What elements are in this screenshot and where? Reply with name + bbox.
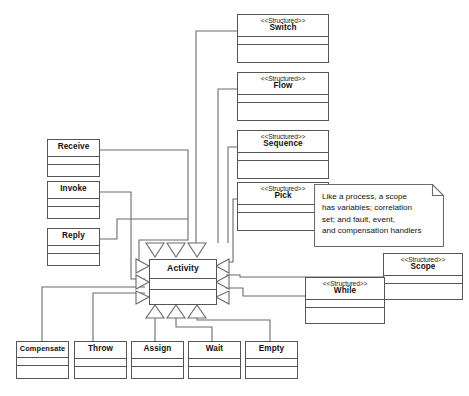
class-box-assign[interactable]: Assign <box>131 341 184 379</box>
operations-compartment <box>48 254 99 262</box>
class-name: Scope <box>386 263 460 272</box>
class-header-while: <<Structured>> While <box>306 278 384 300</box>
operations-compartment <box>189 367 240 375</box>
class-header-empty: Empty <box>246 342 297 359</box>
class-name: Switch <box>240 24 326 33</box>
class-box-while[interactable]: <<Structured>> While <box>305 277 385 324</box>
operations-compartment <box>238 161 328 169</box>
attributes-compartment <box>238 153 328 161</box>
class-header-wait: Wait <box>189 342 240 359</box>
edge-wait-activity <box>176 318 212 341</box>
generalization-triangle-right-3 <box>216 291 229 304</box>
attributes-compartment <box>246 359 297 367</box>
operations-compartment <box>238 103 328 111</box>
edge-reply-activity <box>100 219 188 239</box>
note-line-3: set; and fault, event, <box>322 214 438 225</box>
generalization-triangle-top-2 <box>167 243 185 257</box>
attributes-compartment <box>238 37 328 45</box>
class-name: Wait <box>191 345 238 354</box>
class-header-receive: Receive <box>48 140 99 157</box>
class-box-switch[interactable]: <<Structured>> Switch <box>237 14 329 63</box>
class-box-scope[interactable]: <<Structured>> Scope <box>383 253 463 300</box>
operations-compartment <box>17 366 68 374</box>
generalization-triangle-top-3 <box>188 243 206 257</box>
operations-compartment <box>132 367 183 375</box>
operations-compartment <box>48 165 99 173</box>
operations-compartment <box>48 207 99 215</box>
class-box-throw[interactable]: Throw <box>74 341 127 379</box>
operations-compartment <box>384 284 462 292</box>
class-header-switch: <<Structured>> Switch <box>238 15 328 37</box>
class-name: Activity <box>152 264 214 273</box>
class-header-reply: Reply <box>48 229 99 246</box>
generalization-triangle-bottom-3 <box>188 305 206 318</box>
attributes-compartment <box>132 359 183 367</box>
class-header-throw: Throw <box>75 342 126 359</box>
class-name: Empty <box>248 345 295 354</box>
generalization-triangle-top-1 <box>146 243 164 257</box>
class-header-scope: <<Structured>> Scope <box>384 254 462 276</box>
class-box-empty[interactable]: Empty <box>245 341 298 379</box>
attributes-compartment <box>48 157 99 165</box>
class-header-activity: Activity <box>150 260 216 279</box>
attributes-compartment <box>384 276 462 284</box>
class-box-wait[interactable]: Wait <box>188 341 241 379</box>
class-name: Sequence <box>240 140 326 149</box>
class-header-flow: <<Structured>> Flow <box>238 73 328 95</box>
class-name: While <box>308 287 382 296</box>
class-box-activity[interactable]: Activity <box>149 259 217 305</box>
class-name: Throw <box>77 345 124 354</box>
class-box-reply[interactable]: Reply <box>47 228 100 266</box>
note-text: Like a process, a scope has variables; c… <box>314 184 444 247</box>
attributes-compartment <box>306 300 384 308</box>
note-line-2: has variables; correlation <box>322 202 438 213</box>
class-name: Compensate <box>19 345 66 353</box>
generalization-triangle-right-1 <box>216 259 229 273</box>
class-name: Flow <box>240 82 326 91</box>
generalization-triangle-bottom-1 <box>146 305 164 318</box>
class-header-assign: Assign <box>132 342 183 359</box>
edge-switch-activity <box>196 31 237 243</box>
attributes-compartment <box>48 199 99 207</box>
operations-compartment <box>75 367 126 375</box>
attributes-compartment <box>17 358 68 366</box>
operations-compartment <box>246 367 297 375</box>
attributes-compartment <box>150 279 216 290</box>
generalization-triangle-bottom-2 <box>167 305 185 318</box>
class-name: Invoke <box>50 185 97 194</box>
class-name: Receive <box>50 143 97 152</box>
note-scope-annotation[interactable]: Like a process, a scope has variables; c… <box>314 184 444 247</box>
class-header-sequence: <<Structured>> Sequence <box>238 131 328 153</box>
operations-compartment <box>238 45 328 53</box>
note-line-1: Like a process, a scope <box>322 191 438 202</box>
class-header-invoke: Invoke <box>48 182 99 199</box>
generalization-triangle-right-2 <box>216 275 229 289</box>
attributes-compartment <box>48 246 99 254</box>
attributes-compartment <box>238 95 328 103</box>
note-line-4: and compensation handlers <box>322 225 438 236</box>
class-name: Assign <box>134 345 181 354</box>
operations-compartment <box>306 308 384 316</box>
class-box-compensate[interactable]: Compensate <box>16 341 69 379</box>
class-name: Reply <box>50 232 97 241</box>
edge-empty-activity <box>197 318 270 341</box>
generalization-triangle-left-1 <box>136 259 149 273</box>
class-box-flow[interactable]: <<Structured>> Flow <box>237 72 329 121</box>
operations-compartment <box>150 290 216 301</box>
edge-while-activity <box>226 288 305 296</box>
class-box-sequence[interactable]: <<Structured>> Sequence <box>237 130 329 179</box>
attributes-compartment <box>75 359 126 367</box>
class-header-compensate: Compensate <box>17 342 68 358</box>
class-box-invoke[interactable]: Invoke <box>47 181 100 219</box>
class-box-receive[interactable]: Receive <box>47 139 100 177</box>
attributes-compartment <box>189 359 240 367</box>
